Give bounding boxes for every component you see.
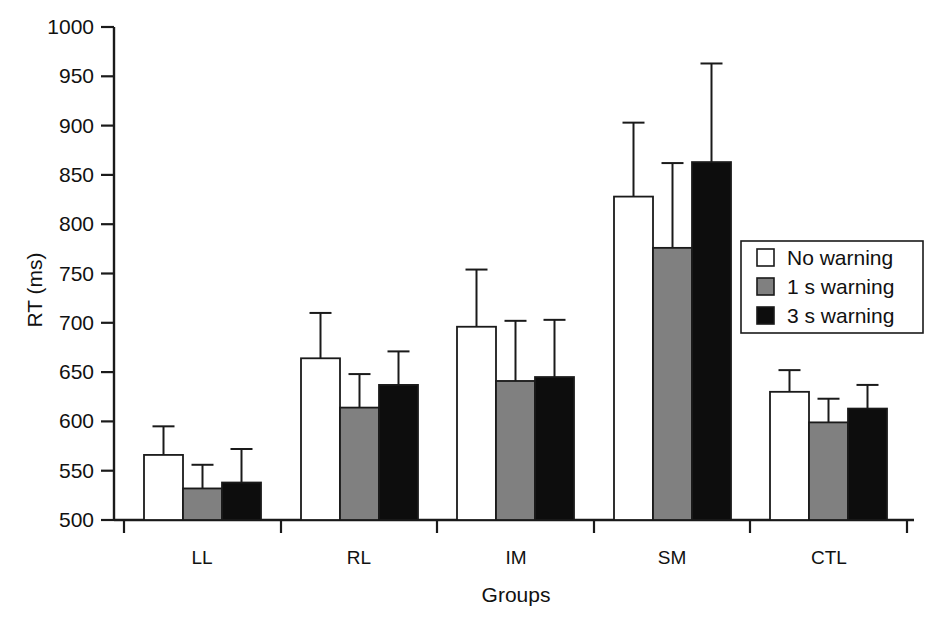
bar: [301, 358, 340, 520]
error-bar: [349, 374, 371, 408]
error-bar: [701, 63, 723, 162]
y-tick-label-850: 850: [59, 163, 94, 186]
legend-label-1s-warning: 1 s warning: [787, 275, 894, 298]
legend-swatch-1s-warning: [757, 278, 774, 295]
category-label-im: IM: [505, 547, 526, 568]
y-tick-label-950: 950: [59, 64, 94, 87]
error-bar: [662, 163, 684, 248]
bar: [379, 385, 418, 520]
legend-swatch-3s-warning: [757, 307, 774, 324]
bar: [340, 408, 379, 520]
y-axis-title: RT (ms): [23, 252, 46, 327]
y-axis-tick-labels: 1000 950 900 850 800 750 700 650 600 550…: [47, 15, 94, 531]
bar: [848, 409, 887, 520]
legend-label-3s-warning: 3 s warning: [787, 304, 894, 327]
bar: [457, 327, 496, 520]
bar: [222, 483, 261, 520]
y-tick-label-700: 700: [59, 311, 94, 334]
x-axis-title: Groups: [482, 583, 551, 606]
error-bar: [779, 370, 801, 392]
error-bar: [153, 426, 175, 455]
category-label-ctl: CTL: [811, 547, 847, 568]
bar: [183, 488, 222, 520]
error-bar: [857, 385, 879, 409]
legend-label-no-warning: No warning: [787, 246, 893, 269]
category-label-ll: LL: [191, 547, 212, 568]
bar: [496, 381, 535, 520]
y-tick-label-750: 750: [59, 262, 94, 285]
y-axis-ticks: [101, 27, 114, 520]
error-bar: [388, 351, 410, 385]
error-bar: [310, 313, 332, 358]
y-tick-label-900: 900: [59, 114, 94, 137]
y-tick-label-600: 600: [59, 409, 94, 432]
bar: [692, 162, 731, 520]
y-tick-label-800: 800: [59, 212, 94, 235]
bar: [653, 248, 692, 520]
y-tick-label-500: 500: [59, 508, 94, 531]
y-tick-label-650: 650: [59, 360, 94, 383]
error-bar: [231, 449, 253, 483]
error-bar: [505, 321, 527, 381]
category-label-sm: SM: [658, 547, 687, 568]
error-bar: [544, 320, 566, 377]
error-bar: [466, 270, 488, 327]
error-bar: [623, 123, 645, 197]
category-label-rl: RL: [347, 547, 371, 568]
y-tick-label-1000: 1000: [47, 15, 94, 38]
error-bar: [818, 399, 840, 423]
error-bar: [192, 465, 214, 489]
y-tick-label-550: 550: [59, 459, 94, 482]
figure-container: 1000 950 900 850 800 750 700 650 600 550…: [0, 0, 932, 628]
legend-swatch-no-warning: [757, 249, 774, 266]
legend: No warning 1 s warning 3 s warning: [741, 241, 923, 333]
bar: [809, 422, 848, 520]
x-axis-ticks: [124, 520, 907, 533]
bar: [535, 377, 574, 520]
bar: [614, 197, 653, 520]
bar: [770, 392, 809, 520]
x-axis-category-labels: LL RL IM SM CTL: [191, 547, 847, 568]
bar-chart: 1000 950 900 850 800 750 700 650 600 550…: [0, 0, 932, 628]
bar: [144, 455, 183, 520]
